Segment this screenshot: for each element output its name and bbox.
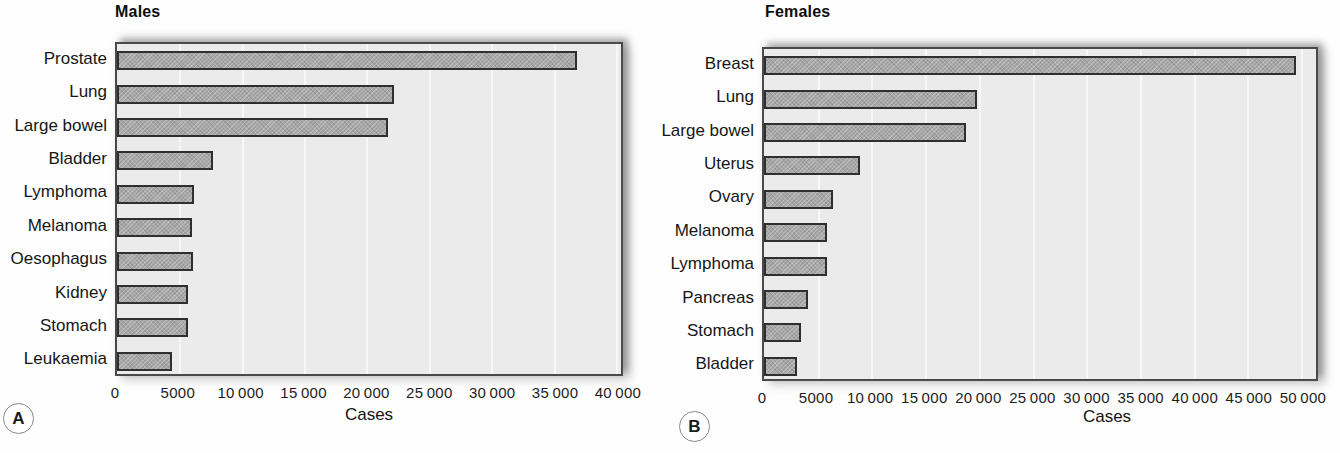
- chart-title: Males: [115, 3, 160, 21]
- gridline: [979, 49, 981, 379]
- x-tick-label: 15 000: [901, 389, 948, 406]
- gridline: [1033, 49, 1035, 379]
- bar-prostate: [117, 51, 577, 70]
- gridline: [1247, 49, 1249, 379]
- category-label: Bladder: [0, 148, 107, 170]
- bar-ovary: [764, 190, 833, 209]
- bar-leukaemia: [117, 352, 172, 371]
- x-tick-label: 0: [758, 389, 767, 406]
- category-label: Lung: [0, 81, 107, 103]
- plot-area: [762, 47, 1318, 381]
- category-label: Large bowel: [0, 115, 107, 137]
- gridline: [1194, 49, 1196, 379]
- category-label: Kidney: [0, 282, 107, 304]
- category-label: Oesophagus: [0, 248, 107, 270]
- gridline: [1140, 49, 1142, 379]
- x-tick-label: 45 000: [1226, 389, 1273, 406]
- x-tick-label: 20 000: [955, 389, 1002, 406]
- bar-oesophagus: [117, 252, 193, 271]
- bar-stomach: [117, 318, 188, 337]
- category-label: Ovary: [647, 186, 754, 208]
- bar-breast: [764, 56, 1296, 75]
- gridline: [429, 44, 431, 374]
- category-label: Prostate: [0, 48, 107, 70]
- gridline: [491, 44, 493, 374]
- panel-females: Females Cases B BreastLungLarge bowelUte…: [647, 0, 1340, 453]
- x-tick-label: 40 000: [1172, 389, 1219, 406]
- bar-large-bowel: [764, 123, 966, 142]
- gridline: [616, 44, 618, 374]
- bar-bladder: [117, 151, 213, 170]
- x-tick-label: 50 000: [1280, 389, 1327, 406]
- x-tick-label: 10 000: [217, 384, 264, 401]
- bar-large-bowel: [117, 118, 388, 137]
- x-tick-label: 35 000: [1117, 389, 1164, 406]
- bar-lung: [764, 90, 977, 109]
- bar-bladder: [764, 357, 797, 376]
- category-label: Lung: [647, 86, 754, 108]
- bar-kidney: [117, 285, 188, 304]
- category-label: Stomach: [647, 320, 754, 342]
- bar-melanoma: [117, 218, 192, 237]
- plot-area: [115, 42, 623, 376]
- x-tick-label: 5000: [161, 384, 196, 401]
- panel-letter-badge: B: [679, 411, 710, 442]
- gridline: [1301, 49, 1303, 379]
- x-tick-label: 35 000: [532, 384, 579, 401]
- category-label: Breast: [647, 53, 754, 75]
- chart-title: Females: [765, 3, 830, 21]
- x-tick-label: 25 000: [1009, 389, 1056, 406]
- x-axis-label: Cases: [1083, 407, 1131, 427]
- x-tick-label: 0: [111, 384, 120, 401]
- category-label: Large bowel: [647, 120, 754, 142]
- bar-lymphoma: [117, 185, 194, 204]
- bar-lymphoma: [764, 257, 827, 276]
- panel-males: Males Cases A ProstateLungLarge bowelBla…: [0, 0, 660, 453]
- category-label: Uterus: [647, 153, 754, 175]
- category-label: Leukaemia: [0, 348, 107, 370]
- category-label: Lymphoma: [647, 253, 754, 275]
- category-label: Lymphoma: [0, 181, 107, 203]
- category-label: Melanoma: [0, 215, 107, 237]
- gridline: [1086, 49, 1088, 379]
- category-label: Bladder: [647, 353, 754, 375]
- bar-melanoma: [764, 223, 827, 242]
- panel-letter: B: [688, 417, 700, 437]
- x-tick-label: 40 000: [595, 384, 642, 401]
- x-tick-label: 5000: [799, 389, 834, 406]
- panel-letter: A: [12, 409, 24, 429]
- bar-uterus: [764, 156, 860, 175]
- x-tick-label: 10 000: [847, 389, 894, 406]
- category-label: Melanoma: [647, 220, 754, 242]
- x-tick-label: 25 000: [406, 384, 453, 401]
- bar-lung: [117, 85, 394, 104]
- x-tick-label: 15 000: [280, 384, 327, 401]
- x-tick-label: 30 000: [469, 384, 516, 401]
- category-label: Stomach: [0, 315, 107, 337]
- bar-pancreas: [764, 290, 808, 309]
- category-label: Pancreas: [647, 287, 754, 309]
- x-axis-label: Cases: [345, 405, 393, 425]
- x-tick-label: 20 000: [343, 384, 390, 401]
- panel-letter-badge: A: [3, 403, 34, 434]
- gridline: [554, 44, 556, 374]
- bar-stomach: [764, 323, 801, 342]
- x-tick-label: 30 000: [1063, 389, 1110, 406]
